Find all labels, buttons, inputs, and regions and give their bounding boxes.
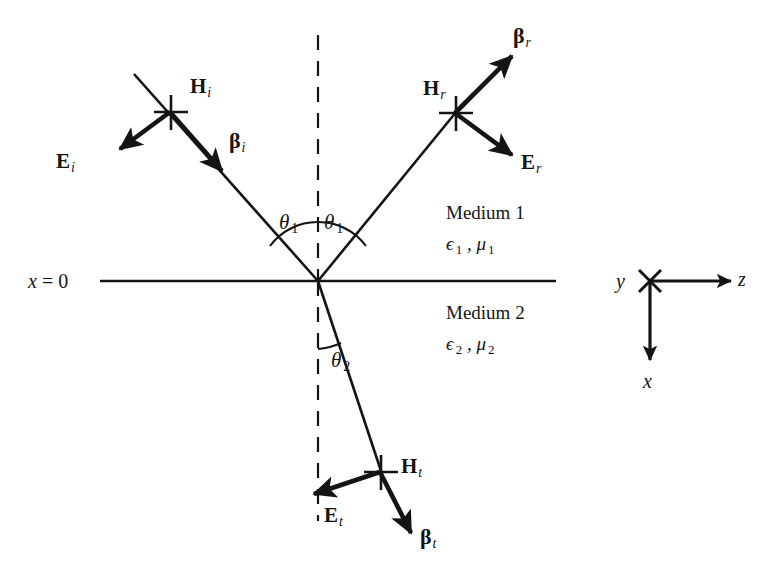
transmitted-e-arrow — [314, 472, 380, 494]
wave-incidence-figure: x = 0 Hi Ei βi Hr Er βr Ht Et βt θ1 θ1 θ… — [0, 0, 761, 581]
medium-1-permeability: μ — [476, 233, 486, 254]
angle-incidence-symbol: θ — [279, 210, 289, 234]
reflected-e-label: Er — [521, 152, 541, 176]
y-axis-label: y — [616, 271, 625, 291]
medium-2-name: Medium 2 — [446, 303, 525, 322]
transmitted-e-symbol: E — [324, 503, 338, 527]
angle-transmission-label: θ2 — [331, 350, 350, 374]
medium-2-parameters: ϵ2 , μ2 — [446, 334, 494, 356]
incident-h-label: Hi — [190, 76, 211, 100]
z-axis-label: z — [738, 269, 746, 289]
angle-reflection-label: θ1 — [324, 212, 343, 236]
medium-2-permittivity-subscript: 2 — [454, 342, 463, 357]
angle-transmission-subscript: 2 — [341, 359, 350, 374]
medium-1-permittivity: ϵ — [446, 233, 454, 254]
reflected-e-arrow — [455, 113, 512, 155]
transmitted-e-subscript: t — [338, 514, 343, 529]
reflected-e-subscript: r — [535, 161, 541, 176]
transmitted-h-subscript: t — [417, 465, 422, 480]
incident-beta-subscript: i — [241, 140, 246, 155]
medium-1-parameters: ϵ1 , μ1 — [446, 234, 494, 256]
incident-h-symbol: H — [190, 74, 206, 98]
transmitted-h-label: Ht — [401, 456, 422, 480]
incident-e-label: Ei — [56, 151, 75, 175]
incident-ray — [134, 74, 318, 281]
boundary-plane-label: x = 0 — [28, 271, 68, 291]
angle-reflection-symbol: θ — [324, 210, 334, 234]
transmitted-beta-symbol: β — [420, 524, 432, 549]
incident-beta-symbol: β — [229, 128, 241, 153]
boundary-plane-value: 0 — [58, 270, 68, 292]
angle-transmission-symbol: θ — [331, 348, 341, 372]
angle-incidence-label: θ1 — [279, 212, 298, 236]
reflected-ray — [318, 111, 457, 281]
reflected-beta-subscript: r — [525, 35, 531, 50]
angle-reflection-subscript: 1 — [334, 221, 343, 236]
reflected-beta-symbol: β — [513, 23, 525, 48]
boundary-plane-variable: x — [28, 270, 37, 292]
incident-e-arrow — [120, 112, 170, 149]
reflected-beta-label: βr — [513, 25, 531, 50]
incident-h-subscript: i — [206, 85, 211, 100]
medium-2-permittivity: ϵ — [446, 333, 454, 354]
angle-incidence-subscript: 1 — [289, 221, 298, 236]
medium-1-separator: , — [462, 233, 476, 254]
incident-beta-label: βi — [229, 130, 245, 155]
figure-canvas — [0, 0, 761, 581]
reflected-h-label: Hr — [423, 78, 446, 102]
medium-2-separator: , — [462, 333, 476, 354]
transmitted-beta-arrow — [380, 472, 411, 533]
incident-beta-arrow — [170, 112, 222, 171]
transmitted-ray — [318, 281, 382, 474]
reflected-h-symbol: H — [423, 76, 439, 100]
reflected-e-symbol: E — [521, 150, 535, 174]
transmitted-h-cross-marker — [364, 455, 398, 490]
reflected-beta-arrow — [455, 56, 512, 113]
transmitted-beta-subscript: t — [432, 536, 437, 551]
medium-1-permittivity-subscript: 1 — [454, 242, 463, 257]
x-axis-label: x — [643, 371, 652, 391]
medium-1-name: Medium 1 — [446, 203, 525, 222]
transmitted-beta-label: βt — [420, 526, 436, 551]
boundary-plane-equals: = — [37, 270, 58, 292]
incident-e-symbol: E — [56, 149, 70, 173]
transmitted-h-symbol: H — [401, 454, 417, 478]
reflected-h-subscript: r — [439, 87, 445, 102]
medium-1-permeability-subscript: 1 — [486, 242, 495, 257]
medium-2-permeability: μ — [476, 333, 486, 354]
medium-2-permeability-subscript: 2 — [486, 342, 495, 357]
transmitted-e-label: Et — [324, 505, 343, 529]
incident-e-subscript: i — [70, 160, 75, 175]
